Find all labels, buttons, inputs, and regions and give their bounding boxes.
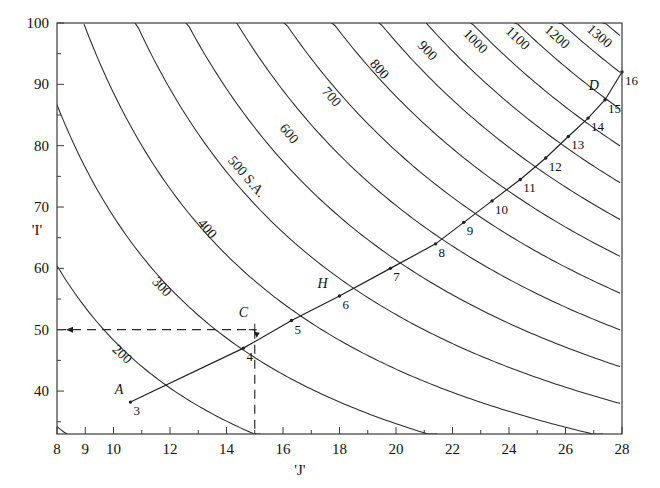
y-axis-tick-label: 40	[34, 383, 49, 399]
y-axis-tick-label: 70	[34, 199, 49, 215]
x-axis-tick-label: 20	[389, 441, 404, 457]
data-point-label: 11	[523, 180, 536, 195]
data-point-label: 4	[246, 349, 253, 364]
annotation-label: C	[239, 305, 249, 320]
x-axis-tick-label: 12	[163, 441, 178, 457]
y-axis-tick-label: 50	[34, 322, 49, 338]
data-point-marker	[389, 267, 392, 270]
data-point-marker	[242, 346, 245, 349]
data-point-label: 6	[343, 297, 350, 312]
data-point-marker	[603, 98, 606, 101]
x-axis-tick-label: 18	[332, 441, 347, 457]
x-axis-tick-label: 24	[502, 441, 518, 457]
data-point-label: 14	[591, 119, 605, 134]
annotation-label: H	[316, 276, 328, 291]
data-point-marker	[567, 135, 570, 138]
annotation-label: D	[588, 78, 599, 93]
data-point-marker	[586, 116, 589, 119]
data-point-label: 9	[467, 223, 474, 238]
y-axis-tick-label: 90	[34, 76, 49, 92]
nomogram-chart: 345678910111213141516 200300400500 S.A.6…	[0, 0, 660, 488]
y-axis-tick-label: 100	[27, 15, 50, 31]
data-point-marker	[544, 156, 547, 159]
chart-background	[0, 0, 660, 488]
y-axis-tick-label: 60	[34, 260, 49, 276]
data-point-marker	[490, 199, 493, 202]
data-point-marker	[519, 178, 522, 181]
x-axis-tick-label: 26	[558, 441, 574, 457]
x-axis-title: 'J'	[294, 462, 306, 478]
x-axis-tick-label: 10	[106, 441, 121, 457]
y-axis-title: 'I'	[32, 222, 43, 238]
data-point-label: 7	[393, 269, 400, 284]
data-point-label: 16	[625, 73, 639, 88]
data-point-marker	[338, 294, 341, 297]
x-axis-tick-label: 8	[53, 441, 61, 457]
data-point-label: 3	[133, 403, 140, 418]
data-point-label: 15	[608, 101, 621, 116]
x-axis-tick-label: 14	[219, 441, 235, 457]
x-axis-tick-label: 22	[445, 441, 460, 457]
data-point-marker	[290, 319, 293, 322]
chart-figure: 345678910111213141516 200300400500 S.A.6…	[0, 0, 660, 488]
data-point-label: 10	[495, 202, 508, 217]
data-point-marker	[129, 400, 132, 403]
data-point-label: 5	[294, 322, 301, 337]
y-axis-tick-label: 80	[34, 138, 49, 154]
annotation-label: A	[114, 382, 124, 397]
data-point-marker	[434, 242, 437, 245]
data-point-label: 8	[439, 245, 446, 260]
x-axis-tick-label: 9	[82, 441, 90, 457]
x-axis-tick-label: 16	[276, 441, 292, 457]
data-point-label: 13	[571, 137, 584, 152]
x-axis-tick-label: 28	[615, 441, 630, 457]
data-point-label: 12	[549, 159, 562, 174]
data-point-marker	[462, 221, 465, 224]
